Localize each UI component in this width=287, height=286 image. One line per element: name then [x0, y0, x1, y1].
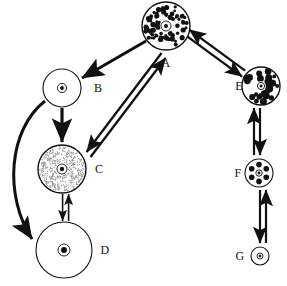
- node-granule: [62, 180, 63, 181]
- node-granule: [73, 154, 74, 155]
- node-granule: [77, 156, 78, 157]
- node-granule: [60, 147, 61, 148]
- node-granule: [42, 159, 43, 160]
- edge-A-C-up: [91, 58, 166, 157]
- node-granule: [42, 168, 43, 169]
- nucleus-dot-C: [60, 167, 64, 171]
- node-granule: [75, 168, 76, 169]
- node-granule: [155, 22, 160, 27]
- node-granule: [82, 172, 83, 173]
- node-granule: [70, 180, 71, 181]
- node-granule: [65, 189, 66, 190]
- node-granule: [66, 161, 67, 162]
- node-granule: [81, 176, 82, 177]
- node-granule: [249, 174, 255, 180]
- node-granule: [83, 173, 84, 174]
- node-granule: [265, 74, 272, 81]
- node-granule: [63, 147, 64, 148]
- node-granule: [67, 185, 68, 186]
- node-granule: [256, 71, 262, 77]
- node-granule: [47, 173, 48, 174]
- node-granule: [69, 154, 70, 155]
- node-granule: [76, 184, 77, 185]
- node-granule: [62, 149, 63, 150]
- node-E[interactable]: [242, 67, 280, 105]
- node-granule: [76, 183, 77, 184]
- node-granule: [74, 167, 75, 168]
- node-granule: [55, 162, 56, 163]
- node-D[interactable]: [36, 222, 92, 278]
- node-label-D: D: [101, 243, 110, 257]
- node-G[interactable]: [251, 247, 269, 265]
- node-granule: [77, 164, 78, 165]
- node-C[interactable]: [38, 145, 86, 193]
- node-granule: [59, 186, 60, 187]
- node-granule: [42, 170, 43, 171]
- node-granule: [49, 162, 50, 163]
- node-granule: [47, 154, 48, 155]
- node-granule: [47, 160, 48, 161]
- node-granule: [71, 182, 72, 183]
- node-granule: [246, 74, 253, 81]
- node-granule: [53, 159, 54, 160]
- node-granule: [60, 159, 61, 160]
- node-granule: [174, 40, 177, 43]
- node-granule: [45, 173, 46, 174]
- node-granule: [254, 92, 258, 96]
- node-granule: [56, 173, 57, 174]
- node-granule: [55, 177, 56, 178]
- node-granule: [52, 185, 53, 186]
- node-granule: [78, 182, 79, 183]
- node-granule: [46, 181, 47, 182]
- node-granule: [50, 181, 51, 182]
- node-granule: [61, 154, 62, 155]
- node-granule: [180, 35, 185, 40]
- cell-lineage-diagram: ABCDEFG: [0, 0, 287, 286]
- node-granule: [71, 165, 72, 166]
- node-granule: [74, 162, 75, 163]
- node-granule: [81, 163, 82, 164]
- node-granule: [83, 163, 84, 164]
- node-granule: [68, 190, 69, 191]
- node-granule: [71, 152, 72, 153]
- node-granule: [46, 155, 47, 156]
- node-granule: [175, 16, 178, 19]
- node-granule: [82, 168, 83, 169]
- node-granule: [80, 173, 81, 174]
- node-granule: [80, 171, 81, 172]
- node-granule: [51, 153, 52, 154]
- nodes-layer: [36, 2, 280, 278]
- node-granule: [249, 166, 255, 172]
- node-granule: [77, 170, 78, 171]
- node-granule: [72, 173, 73, 174]
- node-granule: [73, 163, 74, 164]
- node-granule: [68, 187, 69, 188]
- node-A[interactable]: [142, 2, 190, 50]
- node-B[interactable]: [43, 69, 81, 107]
- node-granule: [68, 153, 69, 154]
- edge-A-B: [82, 41, 146, 78]
- node-F[interactable]: [245, 159, 273, 187]
- node-granule: [46, 179, 47, 180]
- node-granule: [272, 74, 276, 78]
- node-granule: [45, 181, 46, 182]
- node-granule: [72, 182, 73, 183]
- node-granule: [63, 157, 64, 158]
- node-granule: [57, 176, 58, 177]
- node-granule: [164, 5, 169, 10]
- node-granule: [72, 152, 73, 153]
- node-granule: [155, 34, 158, 37]
- node-granule: [45, 182, 46, 183]
- node-granule: [50, 185, 51, 186]
- node-granule: [41, 165, 42, 166]
- node-granule: [70, 185, 71, 186]
- node-granule: [59, 147, 60, 148]
- node-granule: [150, 37, 153, 40]
- node-granule: [55, 154, 56, 155]
- node-granule: [65, 177, 66, 178]
- node-granule: [46, 184, 47, 185]
- node-granule: [76, 175, 77, 176]
- node-granule: [51, 160, 52, 161]
- nucleus-dot-B: [60, 86, 64, 90]
- node-granule: [41, 172, 42, 173]
